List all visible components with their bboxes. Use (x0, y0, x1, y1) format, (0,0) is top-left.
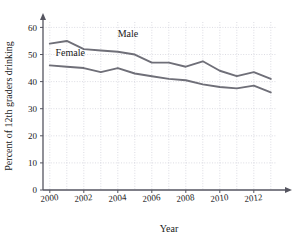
x-axis-arrow (285, 187, 292, 193)
y-tick-label: 10 (28, 158, 38, 168)
x-tick-label: 2008 (176, 192, 195, 204)
y-axis-tick-labels: 0102030405060 (28, 23, 43, 196)
y-tick-label: 50 (28, 50, 38, 60)
x-axis-title: Year (160, 223, 179, 234)
series-label-female: Female (55, 47, 85, 58)
x-tick-label: 2010 (210, 192, 229, 204)
y-tick-label: 40 (28, 77, 38, 87)
y-axis-arrow (40, 13, 46, 20)
y-tick-label: 0 (33, 185, 38, 195)
x-axis-tick-labels: 2000200220042006200820102012 (40, 190, 263, 204)
series-label-male: Male (118, 28, 139, 39)
series-line-female (50, 65, 271, 92)
x-tick-label: 2006 (142, 192, 161, 204)
y-tick-label: 20 (28, 131, 38, 141)
y-axis-title: Percent of 12th graders drinking (3, 41, 14, 170)
y-tick-label: 30 (28, 104, 38, 114)
x-tick-label: 2004 (108, 192, 127, 204)
axes (40, 13, 292, 193)
x-tick-label: 2012 (244, 192, 263, 204)
x-tick-label: 2000 (40, 192, 59, 204)
y-tick-label: 60 (28, 23, 38, 33)
chart-figure: 0102030405060 20002002200420062008201020… (0, 0, 298, 237)
x-tick-label: 2002 (74, 192, 93, 204)
line-chart: 0102030405060 20002002200420062008201020… (0, 0, 298, 237)
